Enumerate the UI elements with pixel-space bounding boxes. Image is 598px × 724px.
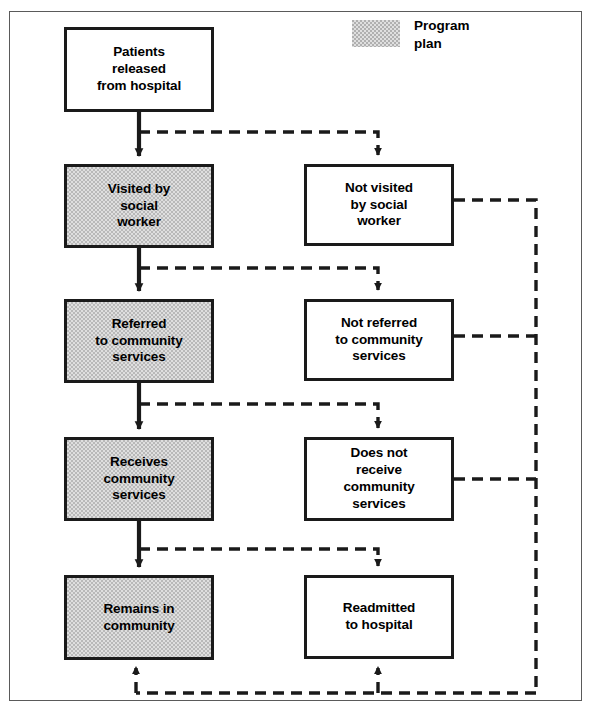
node-referred-community-services[interactable]: Referred to community services: [64, 299, 214, 383]
legend-label: Program plan: [414, 17, 470, 52]
node-visited-social-worker[interactable]: Visited by social worker: [64, 164, 214, 248]
node-label-remains-in-community: Remains in community: [99, 601, 178, 635]
node-label-receives-community-services: Receives community services: [99, 454, 178, 505]
node-label-readmitted-to-hospital: Readmitted to hospital: [339, 600, 420, 634]
node-label-patients-released: Patients released from hospital: [93, 44, 185, 95]
node-does-not-receive-community-services[interactable]: Does not receive community services: [304, 437, 454, 521]
node-label-visited-social-worker: Visited by social worker: [104, 181, 175, 232]
node-patients-released[interactable]: Patients released from hospital: [64, 27, 214, 112]
node-remains-in-community[interactable]: Remains in community: [64, 575, 214, 660]
flowchart-canvas: Program plan Patients released from hosp…: [0, 0, 598, 724]
node-label-referred-community-services: Referred to community services: [91, 316, 186, 367]
legend: Program plan: [352, 20, 470, 52]
node-not-visited-social-worker[interactable]: Not visited by social worker: [304, 164, 454, 246]
node-label-not-referred-community-services: Not referred to community services: [331, 315, 426, 366]
node-readmitted-to-hospital[interactable]: Readmitted to hospital: [304, 575, 454, 659]
program-plan-swatch: [352, 20, 400, 47]
node-not-referred-community-services[interactable]: Not referred to community services: [304, 299, 454, 381]
node-label-not-visited-social-worker: Not visited by social worker: [341, 180, 417, 231]
node-label-does-not-receive-community-services: Does not receive community services: [339, 445, 418, 513]
node-receives-community-services[interactable]: Receives community services: [64, 437, 214, 521]
